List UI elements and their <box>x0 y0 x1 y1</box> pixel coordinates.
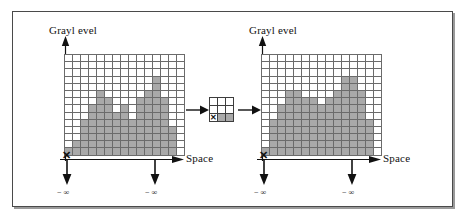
left-grid-cell-r0c1 <box>73 55 81 62</box>
left-grid-cell-r6c4 <box>97 98 105 105</box>
left-grid-cell-r8c1 <box>73 113 81 120</box>
right-grid-cell-r2c13 <box>366 69 374 76</box>
right-grid-cell-r4c6 <box>310 84 318 91</box>
left-x-axis-arrow <box>60 155 185 168</box>
left-y-axis-label: Grayl evel <box>49 24 97 36</box>
left-grid-cell-r6c7 <box>121 98 129 105</box>
left-grid-cell-r7c12 <box>161 105 169 112</box>
left-grid-cell-r11c11 <box>153 134 161 141</box>
left-x-neg-inf-arrow <box>150 160 162 186</box>
right-grid-cell-r3c7 <box>318 77 326 84</box>
left-grid-cell-r6c11 <box>153 98 161 105</box>
right-grid-cell-r13c6 <box>310 148 318 155</box>
right-grid-cell-r12c11 <box>350 141 358 148</box>
right-grid-cell-r12c9 <box>334 141 342 148</box>
right-grid-cell-r3c2 <box>278 77 286 84</box>
right-grid-cell-r6c14 <box>374 98 382 105</box>
left-grid-cell-r13c2 <box>81 148 89 155</box>
right-grid-cell-r3c10 <box>342 77 350 84</box>
left-grid-cell-r2c12 <box>161 69 169 76</box>
right-grid-cell-r11c9 <box>334 134 342 141</box>
left-grid-cell-r13c3 <box>89 148 97 155</box>
left-grid-cell-r5c2 <box>81 91 89 98</box>
right-grid-cell-r7c4 <box>294 105 302 112</box>
right-grid-cell-r0c2 <box>278 55 286 62</box>
figure-root: Grayl evel Space ✕ − ∞ − ∞ <box>0 0 468 223</box>
left-grid-cell-r8c2 <box>81 113 89 120</box>
right-grid-cell-r4c5 <box>302 84 310 91</box>
right-grid-cell-r10c14 <box>374 127 382 134</box>
right-grid-cell-r9c8 <box>326 120 334 127</box>
left-grid-cell-r2c0 <box>65 69 73 76</box>
right-grid-cell-r11c3 <box>286 134 294 141</box>
right-grid-cell-r0c3 <box>286 55 294 62</box>
right-x-neg-inf-label: − ∞ <box>342 188 354 197</box>
left-grid-cell-r4c14 <box>177 84 185 91</box>
left-grid-cell-r8c14 <box>177 113 185 120</box>
right-grid-cell-r8c12 <box>358 113 366 120</box>
right-grid-cell-r9c1 <box>270 120 278 127</box>
right-grid-cell-r11c6 <box>310 134 318 141</box>
right-grid-cell-r13c4 <box>294 148 302 155</box>
left-grid-cell-r5c14 <box>177 91 185 98</box>
left-grid-cell-r9c7 <box>121 120 129 127</box>
right-grid-cell-r4c9 <box>334 84 342 91</box>
right-grid-cell-r12c8 <box>326 141 334 148</box>
right-grid <box>261 54 382 156</box>
right-grid-cell-r3c6 <box>310 77 318 84</box>
right-grid-cell-r12c12 <box>358 141 366 148</box>
left-grid-cell-r10c13 <box>169 127 177 134</box>
left-grid-cell-r4c9 <box>137 84 145 91</box>
right-grid-cell-r11c5 <box>302 134 310 141</box>
right-grid-cell-r13c12 <box>358 148 366 155</box>
right-grid-cell-r10c7 <box>318 127 326 134</box>
left-grid-cell-r5c7 <box>121 91 129 98</box>
right-grid-cell-r8c8 <box>326 113 334 120</box>
right-grid-cell-r10c12 <box>358 127 366 134</box>
right-grid-cell-r9c3 <box>286 120 294 127</box>
right-grid-cell-r4c2 <box>278 84 286 91</box>
right-grid-cell-r12c4 <box>294 141 302 148</box>
se-cell-r0c0 <box>210 98 218 106</box>
right-grid-cell-r1c9 <box>334 62 342 69</box>
right-grid-cell-r8c3 <box>286 113 294 120</box>
se-cell-r1c1 <box>218 106 226 114</box>
left-grid-cell-r2c6 <box>113 69 121 76</box>
right-grid-cell-r6c3 <box>286 98 294 105</box>
right-grid-cell-r5c2 <box>278 91 286 98</box>
right-grid-cell-r4c14 <box>374 84 382 91</box>
right-grid-cell-r3c5 <box>302 77 310 84</box>
left-grid-cell-r6c12 <box>161 98 169 105</box>
left-grid-cell-r9c10 <box>145 120 153 127</box>
right-grid-cell-r1c3 <box>286 62 294 69</box>
right-grid-cell-r9c10 <box>342 120 350 127</box>
right-grid-cell-r4c7 <box>318 84 326 91</box>
left-grid-cell-r11c13 <box>169 134 177 141</box>
left-grid-cell-r13c7 <box>121 148 129 155</box>
left-grid-cell-r0c8 <box>129 55 137 62</box>
right-grid-cell-r2c11 <box>350 69 358 76</box>
right-grid-cell-r8c7 <box>318 113 326 120</box>
right-grid-cell-r6c0 <box>262 98 270 105</box>
left-grid-cell-r2c13 <box>169 69 177 76</box>
right-grid-cell-r1c7 <box>318 62 326 69</box>
right-grid-cell-r2c12 <box>358 69 366 76</box>
se-cell-r0c1 <box>218 98 226 106</box>
right-grid-cell-r13c11 <box>350 148 358 155</box>
left-grid-cell-r9c5 <box>105 120 113 127</box>
right-grid-cell-r10c9 <box>334 127 342 134</box>
right-grid-cell-r9c13 <box>366 120 374 127</box>
left-grid-cell-r11c14 <box>177 134 185 141</box>
left-grid-cell-r3c11 <box>153 77 161 84</box>
right-grid-cell-r4c3 <box>286 84 294 91</box>
left-grid-cell-r10c9 <box>137 127 145 134</box>
left-grid-cell-r8c5 <box>105 113 113 120</box>
right-grid-cell-r11c2 <box>278 134 286 141</box>
right-grid-cell-r3c11 <box>350 77 358 84</box>
left-grid-cell-r5c5 <box>105 91 113 98</box>
left-grid-cell-r2c5 <box>105 69 113 76</box>
right-grid-cell-r11c13 <box>366 134 374 141</box>
left-grid-cell-r5c9 <box>137 91 145 98</box>
left-grid-cell-r10c2 <box>81 127 89 134</box>
right-grid-cell-r8c13 <box>366 113 374 120</box>
